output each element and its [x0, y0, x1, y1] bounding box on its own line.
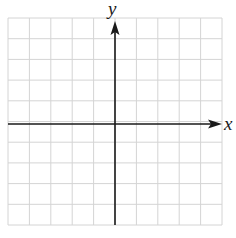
x-axis-label: x — [223, 113, 233, 134]
y-axis — [111, 21, 120, 225]
coordinate-plane: x y — [0, 0, 236, 238]
y-axis-label: y — [106, 0, 117, 19]
